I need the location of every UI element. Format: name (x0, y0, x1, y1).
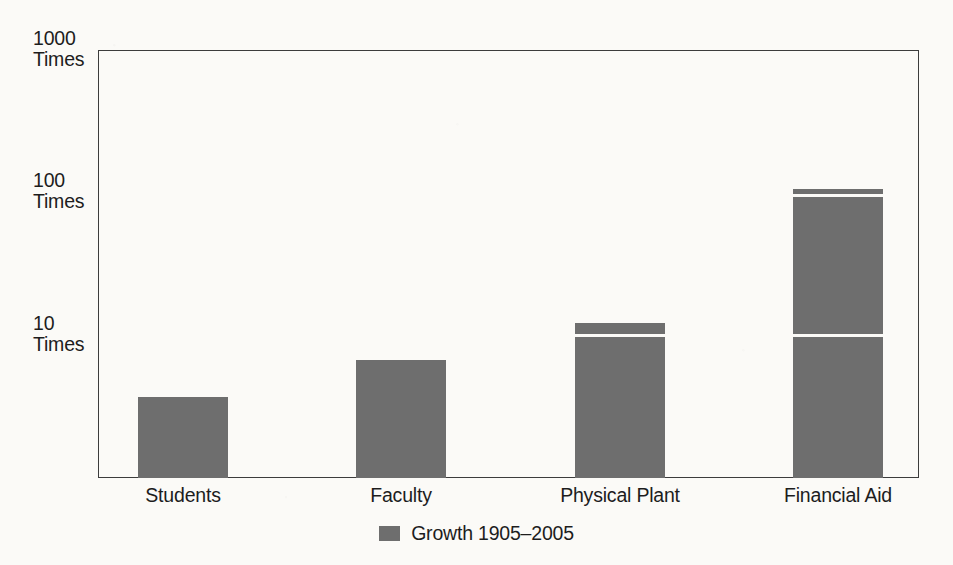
bar-financial-aid (793, 189, 883, 478)
gridline-break-10x (793, 334, 883, 337)
y-axis-tick-10-value: 10 (33, 313, 93, 334)
chart-page: 1000 Times 100 Times 10 Times Students F… (0, 0, 953, 565)
bar-faculty (356, 360, 446, 478)
x-axis-label-students: Students (108, 484, 258, 507)
y-axis-tick-100-unit: Times (33, 191, 93, 212)
chart-legend: Growth 1905–2005 (0, 522, 953, 544)
y-axis-tick-100-value: 100 (33, 170, 93, 191)
y-axis-tick-10-unit: Times (33, 334, 93, 355)
bar-students (138, 397, 228, 478)
y-axis-tick-1000-value: 1000 (33, 28, 93, 49)
y-axis-tick-100: 100 Times (33, 170, 93, 212)
gridline-break-100x (793, 194, 883, 197)
gridline-break-10x (575, 334, 665, 337)
x-axis-label-physical-plant: Physical Plant (530, 484, 710, 507)
y-axis-tick-1000: 1000 Times (33, 28, 93, 70)
y-axis-tick-1000-unit: Times (33, 49, 93, 70)
y-axis-tick-10: 10 Times (33, 313, 93, 355)
legend-label-growth: Growth 1905–2005 (411, 522, 574, 544)
legend-swatch-growth (379, 526, 400, 541)
x-axis-label-financial-aid: Financial Aid (752, 484, 924, 507)
x-axis-label-faculty: Faculty (326, 484, 476, 507)
bar-physical-plant (575, 323, 665, 478)
